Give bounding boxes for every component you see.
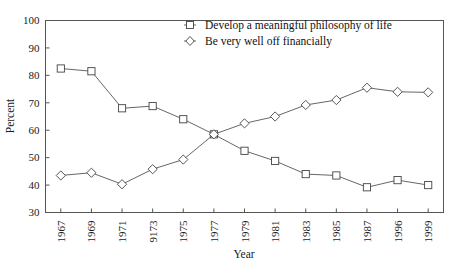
x-tick-label: 1987 — [361, 220, 373, 243]
line-chart: 30405060708090100 1967196919719173197519… — [0, 0, 453, 265]
x-tick-label: 1979 — [239, 220, 251, 243]
y-tick-label: 30 — [29, 206, 41, 218]
x-tick-label: 1999 — [422, 220, 434, 243]
legend-label-financial: Be very well off financially — [205, 35, 332, 48]
x-tick-label: 1981 — [269, 221, 281, 243]
legend-entry-financial: Be very well off financially — [184, 35, 332, 48]
square-marker — [149, 102, 156, 109]
square-marker — [241, 147, 248, 154]
square-marker — [425, 181, 432, 188]
x-tick-label: 1996 — [392, 220, 404, 243]
square-marker — [118, 105, 125, 112]
y-tick-label: 80 — [29, 69, 41, 81]
square-marker — [88, 68, 95, 75]
square-marker — [180, 116, 187, 123]
square-marker — [187, 22, 194, 29]
x-tick-label: 1983 — [300, 220, 312, 243]
legend-entry-philosophy: Develop a meaningful philosophy of life — [184, 19, 392, 32]
x-tick-label: 1975 — [177, 220, 189, 243]
x-tick-label: 1985 — [330, 220, 342, 243]
square-marker — [333, 172, 340, 179]
square-marker — [363, 184, 370, 191]
square-marker — [394, 177, 401, 184]
x-tick-label: 1969 — [85, 220, 97, 243]
square-marker — [272, 157, 279, 164]
y-tick-label: 60 — [29, 124, 41, 136]
x-tick-label: 1977 — [208, 220, 220, 243]
x-tick-label: 1967 — [55, 220, 67, 243]
chart-svg: 30405060708090100 1967196919719173197519… — [0, 0, 453, 265]
x-axis-title: Year — [233, 248, 254, 260]
legend-label-philosophy: Develop a meaningful philosophy of life — [205, 19, 392, 32]
y-tick-label: 90 — [29, 42, 41, 54]
square-marker — [57, 65, 64, 72]
y-axis-title: Percent — [4, 98, 16, 133]
x-tick-label: 9173 — [147, 220, 159, 243]
y-tick-label: 40 — [29, 179, 41, 191]
square-marker — [302, 171, 309, 178]
y-tick-label: 100 — [23, 14, 40, 26]
y-tick-label: 70 — [29, 97, 41, 109]
y-tick-label: 50 — [29, 151, 41, 163]
x-tick-label: 1971 — [116, 221, 128, 243]
